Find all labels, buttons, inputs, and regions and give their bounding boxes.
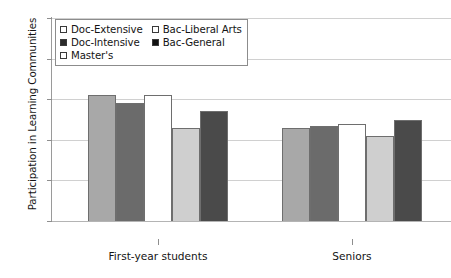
y-tick-20 — [47, 140, 52, 141]
legend-swatch-icon — [152, 26, 159, 33]
y-tick-40 — [47, 59, 52, 60]
legend-swatch-icon — [152, 39, 159, 46]
legend-item: Bac-General — [152, 36, 242, 49]
legend-swatch-icon — [60, 39, 67, 46]
legend-label: Bac-Liberal Arts — [163, 24, 242, 35]
legend-item: Master's — [60, 49, 143, 62]
legend-swatch-icon — [60, 52, 67, 59]
bar — [282, 128, 310, 221]
bar — [394, 120, 422, 222]
legend-label: Master's — [71, 50, 113, 61]
legend-item: Doc-Extensive — [60, 23, 143, 36]
legend-item: Doc-Intensive — [60, 36, 143, 49]
gridline-0 — [52, 221, 451, 222]
bar — [338, 124, 366, 221]
y-tick-50 — [47, 18, 52, 19]
bar — [88, 95, 116, 221]
legend-swatch-icon — [60, 26, 67, 33]
legend-item: Bac-Liberal Arts — [152, 23, 242, 36]
legend-label: Doc-Intensive — [71, 37, 140, 48]
bar — [172, 128, 200, 221]
chart-legend: Doc-ExtensiveBac-Liberal ArtsDoc-Intensi… — [55, 19, 248, 66]
bar — [116, 103, 144, 221]
x-tick — [352, 239, 353, 245]
x-tick — [158, 239, 159, 245]
legend-label: Bac-General — [163, 37, 225, 48]
y-tick-10 — [47, 180, 52, 181]
bar — [200, 111, 228, 221]
x-axis-label: First-year students — [109, 250, 208, 262]
y-axis-title: Participation in Learning Communities — [26, 7, 38, 222]
bar — [366, 136, 394, 221]
legend-label: Doc-Extensive — [71, 24, 143, 35]
x-axis-label: Seniors — [332, 250, 371, 262]
bar — [310, 126, 338, 221]
y-tick-30 — [47, 99, 52, 100]
bar — [144, 95, 172, 221]
bar-chart: Participation in Learning Communities 01… — [0, 0, 451, 278]
y-tick-0 — [47, 221, 52, 222]
